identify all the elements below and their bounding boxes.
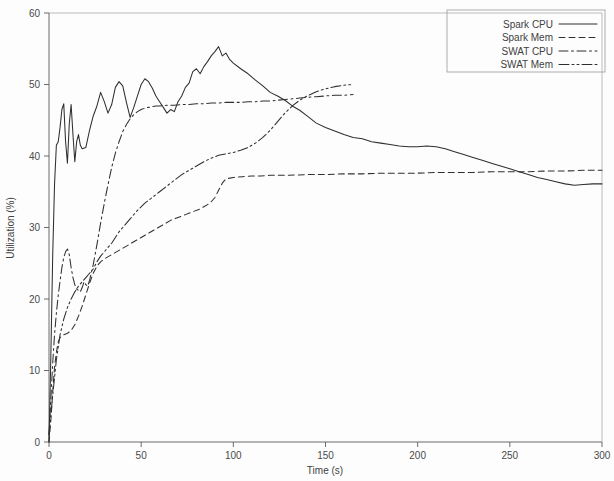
legend-label-spark-cpu: Spark CPU — [503, 19, 553, 30]
y-tick-label: 0 — [34, 437, 40, 448]
x-tick-label: 300 — [594, 450, 611, 461]
x-tick-label: 0 — [46, 450, 52, 461]
x-tick-label: 150 — [317, 450, 334, 461]
y-tick-label: 60 — [29, 8, 41, 19]
y-tick-label: 40 — [29, 151, 41, 162]
x-tick-label: 200 — [409, 450, 426, 461]
y-tick-label: 50 — [29, 79, 41, 90]
x-axis-title: Time (s) — [307, 465, 343, 476]
legend-label-spark-mem: Spark Mem — [502, 32, 553, 43]
y-tick-label: 10 — [29, 365, 41, 376]
y-tick-label: 30 — [29, 222, 41, 233]
x-tick-label: 250 — [501, 450, 518, 461]
y-axis-title: Utilization (%) — [5, 197, 16, 259]
chart-figure: 0102030405060 050100150200250300 Time (s… — [0, 0, 614, 481]
utilization-line-chart: 0102030405060 050100150200250300 Time (s… — [0, 0, 614, 481]
x-tick-label: 100 — [225, 450, 242, 461]
legend-label-swat-cpu: SWAT CPU — [502, 46, 553, 57]
x-tick-label: 50 — [136, 450, 148, 461]
y-tick-label: 20 — [29, 294, 41, 305]
legend-label-swat-mem: SWAT Mem — [500, 59, 553, 70]
